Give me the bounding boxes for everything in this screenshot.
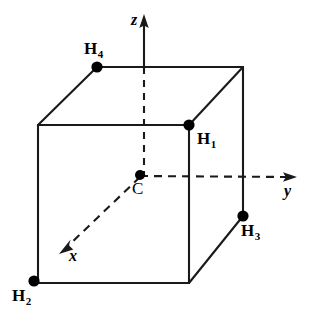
cube-edge-depth-bottom-right [189,216,243,283]
atom-dot-h1 [183,119,194,130]
cube-edge-depth-top-left [38,67,97,125]
x-axis-dashed-shaft [69,177,140,245]
axis-label-z: z [131,12,137,28]
atom-label-h1: H1 [197,130,216,147]
axis-label-x: x [69,248,77,264]
atom-dot-h2 [28,275,39,286]
atom-dot-h4 [91,61,102,72]
cube-edge-depth-top-right [189,67,243,125]
axis-label-y: y [284,183,291,199]
atom-label-h4: H4 [84,40,103,57]
atom-label-c: C [132,180,143,197]
atom-dot-h3 [237,210,248,221]
atom-label-h2: H2 [12,287,31,304]
y-axis-dashed-shaft [140,176,286,177]
cube-geometry-figure: H1 H2 H3 H4 C z y x [0,0,309,327]
atom-label-h3: H3 [241,222,260,239]
cube-front-face [38,125,189,283]
diagram-canvas [0,0,309,327]
